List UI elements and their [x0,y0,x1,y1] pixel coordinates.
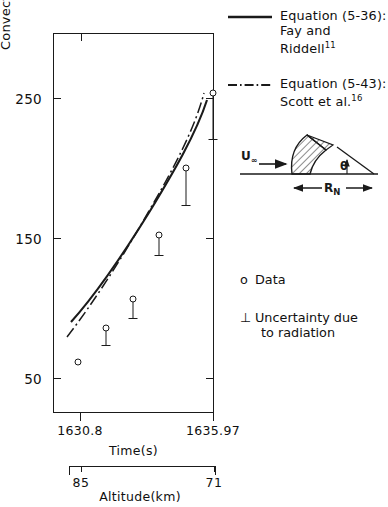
legend-label-line1: Equation (5-43): [280,76,386,91]
curve-equation-5-36 [71,100,207,322]
data-point-1 [75,359,82,366]
y-tick-label-250: 250 [15,91,42,107]
legend-reference-11: 11 [325,40,336,50]
altitude-axis-title: Altitude(km) [40,489,240,504]
symbol-key: oData ⊥Uncertainty dueto radiation [240,272,388,359]
symbol-key-label-line1: Uncertainty due [255,310,358,325]
inset-body-shape [292,135,333,174]
legend-line-dash-dot [228,83,272,87]
x-tick-1635-97 [213,413,214,421]
error-bar-cap-6 [209,139,218,140]
alt-tick-label-85: 85 [73,475,90,490]
alt-tick-85 [81,466,82,472]
legend-label-line2: Scott et al. [280,95,351,110]
error-bar-marker-icon: ⊥ [240,310,255,325]
symbol-key-entry-data: oData [240,272,388,287]
y-axis-title-main: Convective heat flux q̇ [0,0,13,50]
error-bar-cap-2 [102,345,111,346]
symbol-key-label-uncertainty: Uncertainty dueto radiation [255,310,358,340]
legend-reference-16: 16 [351,93,362,103]
x-tick-label-1635-97: 1635.97 [186,423,240,438]
x-tick-label-1630-8: 1630.8 [57,423,103,438]
y-axis-title: Convective heat flux q̇r, ref (W/cm2) [0,0,14,50]
legend-label-equation-5-43: Equation (5-43): Scott et al.16 [280,76,388,109]
legend-label-equation-5-36: Equation (5-36): Fay and Riddell11 [280,8,388,56]
y-tick-label-150: 150 [15,231,42,247]
error-bar-5 [186,168,187,205]
legend: Equation (5-36): Fay and Riddell11 Equat… [228,8,388,126]
inset-theta-label: θ [340,159,348,173]
symbol-key-entry-uncertainty: ⊥Uncertainty dueto radiation [240,310,388,340]
x-tick-1630-8 [80,413,81,421]
alt-tick-71 [214,466,215,472]
error-bar-6 [213,93,214,139]
altitude-axis: 85 71 [69,466,216,475]
legend-line-solid [228,15,272,19]
inset-diagram-blunt-body: θ U∞ RN [234,118,384,200]
data-point-6 [210,90,217,97]
data-point-5 [183,165,190,172]
data-point-2 [103,325,110,332]
error-bar-cap-5 [182,205,191,206]
legend-entry-equation-5-43: Equation (5-43): Scott et al.16 [228,76,388,109]
error-bar-cap-3 [129,318,138,319]
symbol-key-label-line2: to radiation [255,325,358,340]
inset-flow-label: U∞ [241,149,257,165]
legend-label-line1: Equation (5-36): [280,8,386,23]
alt-tick-label-71: 71 [206,475,223,490]
legend-entry-equation-5-36: Equation (5-36): Fay and Riddell11 [228,8,388,56]
y-tick-label-50: 50 [24,371,42,387]
open-circle-marker-icon: o [240,272,255,287]
x-axis-title: Time(s) [53,443,214,458]
time-axis: 1630.8 1635.97 [53,413,214,414]
error-bar-cap-4 [155,255,164,256]
legend-label-line2: Fay and Riddell [280,23,331,56]
data-point-4 [156,232,163,239]
plot-area: 250 150 50 [53,33,214,413]
figure-root: Convective heat flux q̇r, ref (W/cm2) 25… [0,0,388,507]
model-curves-svg [54,34,215,414]
symbol-key-label-data: Data [255,272,286,287]
data-point-3 [130,296,137,303]
